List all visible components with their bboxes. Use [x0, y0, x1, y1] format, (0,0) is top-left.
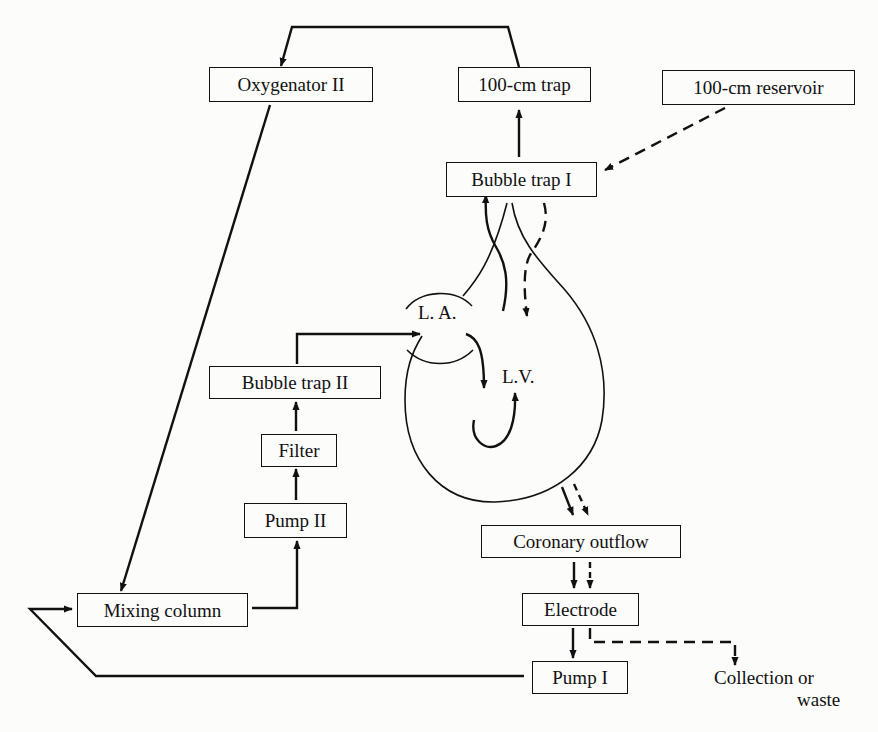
- left-ventricle-label: L.V.: [502, 367, 534, 387]
- arrow-trap-to-oxygenator: [281, 27, 519, 67]
- collection-or-waste-line1: Collection or: [714, 668, 814, 688]
- filter-box: Filter: [261, 434, 337, 467]
- arrow-reservoir-to-bubbletrap1: [605, 108, 725, 170]
- arrow-heart-to-coronary-solid: [562, 487, 573, 515]
- arrow-heart-to-coronary-dashed: [574, 484, 588, 515]
- arrow-bubbletrap1-to-heart: [525, 203, 546, 316]
- la-connector: [463, 203, 507, 296]
- bubble-trap-i-box: Bubble trap I: [446, 162, 597, 197]
- arrow-heart-to-bubbletrap1: [486, 195, 507, 311]
- la-lower-arc: [407, 350, 473, 364]
- pump-ii-box: Pump II: [244, 503, 347, 538]
- reservoir-100cm-box: 100-cm reservoir: [662, 70, 855, 105]
- arrow-electrode-to-collection: [590, 628, 735, 665]
- heart-outline: [405, 203, 604, 502]
- arrow-mixing-to-pump2: [252, 541, 297, 608]
- electrode-box: Electrode: [522, 593, 639, 626]
- mixing-column-box: Mixing column: [77, 593, 248, 627]
- bubble-trap-ii-box: Bubble trap II: [209, 366, 381, 399]
- arrow-lv-loop: [473, 393, 515, 447]
- pump-i-box: Pump I: [532, 661, 628, 694]
- oxygenator-ii-box: Oxygenator II: [209, 67, 373, 102]
- coronary-outflow-box: Coronary outflow: [481, 525, 681, 558]
- arrow-la-to-lv: [466, 334, 484, 388]
- arrow-bubbletrap2-to-la: [297, 334, 420, 364]
- collection-or-waste-line2: waste: [797, 690, 840, 710]
- left-atrium-label: L. A.: [418, 303, 457, 323]
- trap-100cm-box: 100-cm trap: [458, 67, 591, 102]
